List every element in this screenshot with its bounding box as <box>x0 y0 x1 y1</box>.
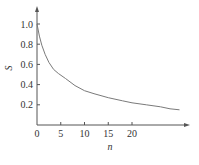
x-tick-label: 20 <box>127 128 137 139</box>
x-tick-label: 10 <box>80 128 90 139</box>
x-tick-label: 15 <box>103 128 113 139</box>
y-tick-label: 0.8 <box>21 39 34 50</box>
series <box>37 24 180 110</box>
y-tick-label: 1.0 <box>21 19 34 30</box>
y-axis-label: S <box>3 66 14 71</box>
axes <box>35 6 190 127</box>
y-tick-label: 0.4 <box>21 79 34 90</box>
series-line-S <box>37 24 180 110</box>
chart: 051015200.20.40.60.81.0 n S <box>0 0 199 165</box>
y-axis-arrow <box>35 6 39 12</box>
x-tick-label: 0 <box>35 128 40 139</box>
ticks: 051015200.20.40.60.81.0 <box>21 19 138 140</box>
x-axis-label: n <box>108 141 113 152</box>
x-axis-arrow <box>184 123 190 127</box>
y-tick-label: 0.6 <box>21 59 34 70</box>
x-tick-label: 5 <box>58 128 63 139</box>
y-tick-label: 0.2 <box>21 99 34 110</box>
